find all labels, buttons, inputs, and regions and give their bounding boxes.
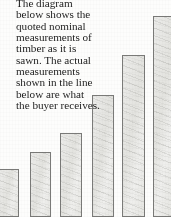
bar-3 bbox=[60, 133, 82, 217]
caption-text-block: The diagram below shows the quoted nomin… bbox=[16, 0, 120, 111]
caption-line: the buyer receives. bbox=[16, 100, 120, 111]
page-canvas: The diagram below shows the quoted nomin… bbox=[0, 0, 171, 217]
bar-2 bbox=[30, 152, 51, 217]
bar-1 bbox=[0, 169, 19, 217]
bar-4 bbox=[92, 95, 114, 217]
bar-5 bbox=[122, 55, 145, 217]
bar-6 bbox=[153, 16, 171, 217]
caption-line: below shows the bbox=[16, 9, 120, 20]
